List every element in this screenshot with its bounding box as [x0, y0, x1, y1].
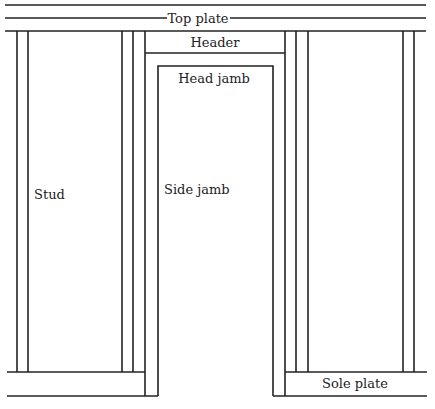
label-top-plate: Top plate: [167, 11, 228, 26]
wall-framing-diagram: Top plate Header Head jamb Stud Side jam…: [0, 0, 435, 409]
label-head-jamb: Head jamb: [178, 71, 250, 86]
label-side-jamb: Side jamb: [164, 182, 230, 197]
door-jamb-outline: [158, 66, 273, 396]
label-header: Header: [190, 35, 240, 50]
label-stud: Stud: [34, 187, 65, 202]
label-sole-plate: Sole plate: [322, 376, 388, 391]
